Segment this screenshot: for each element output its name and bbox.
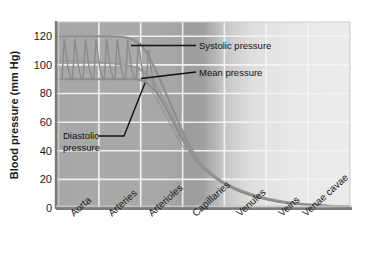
diastolic-annotation-label-line2: pressure: [63, 142, 100, 153]
y-tick-0: 0: [46, 202, 52, 214]
diastolic-annotation-label-line1: Diastolic: [63, 130, 99, 141]
y-tick-120: 120: [34, 30, 52, 42]
y-tick-20: 20: [40, 173, 52, 185]
y-tick-40: 40: [40, 145, 52, 157]
y-tick-60: 60: [40, 116, 52, 128]
blood-pressure-chart-figure: Blood pressure (mm Hg) 120 100 80 60 40 …: [0, 0, 366, 280]
y-tick-80: 80: [40, 87, 52, 99]
mean-annotation-label: Mean pressure: [199, 67, 262, 78]
y-tick-100: 100: [34, 59, 52, 71]
y-axis-title: Blood pressure (mm Hg): [8, 50, 20, 179]
systolic-annotation-label: Systolic pressure: [199, 40, 271, 51]
chart-svg: Blood pressure (mm Hg) 120 100 80 60 40 …: [0, 0, 366, 280]
